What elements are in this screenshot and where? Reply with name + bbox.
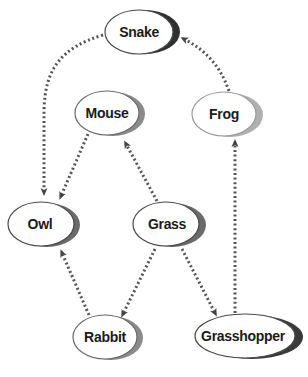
node-mouse: Mouse (75, 91, 145, 136)
node-rabbit-label: Rabbit (84, 329, 126, 345)
edge-grass-to-grasshopper (182, 249, 215, 313)
node-rabbit: Rabbit (73, 315, 143, 360)
node-snake: Snake (105, 10, 180, 54)
node-grass-label: Grass (148, 216, 187, 232)
edge-frog-to-snake (184, 39, 229, 91)
node-snake-label: Snake (119, 24, 159, 40)
edges (44, 35, 235, 315)
node-grasshopper-label: Grasshopper (201, 328, 286, 344)
food-web-diagram: Snake Mouse Frog Owl Grass Rabbit Grassh… (0, 0, 308, 377)
node-grass: Grass (133, 202, 206, 247)
node-owl: Owl (8, 202, 80, 247)
node-mouse-label: Mouse (86, 105, 129, 121)
edge-grass-to-mouse (126, 144, 157, 201)
edge-grass-to-rabbit (123, 249, 155, 314)
node-frog-label: Frog (209, 106, 239, 122)
node-grasshopper: Grasshopper (195, 314, 303, 359)
node-frog: Frog (192, 92, 263, 137)
edge-mouse-to-owl (61, 134, 88, 196)
node-owl-label: Owl (28, 216, 53, 232)
edge-rabbit-to-owl (62, 253, 89, 315)
